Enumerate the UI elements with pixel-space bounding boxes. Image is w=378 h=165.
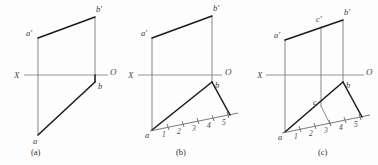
front-view-line-ab-prime xyxy=(152,16,212,38)
scale-number-2: 2 xyxy=(177,127,181,136)
point-label-b: b xyxy=(346,80,350,90)
panel-a: X O a' b' b a (a) xyxy=(0,0,126,165)
point-label-a: a xyxy=(145,130,149,140)
point-label-b-prime: b' xyxy=(344,7,350,17)
panel-caption-b: (b) xyxy=(176,147,186,157)
panel-c: X O a' c' b' b c a 1 2 3 4 5 (c) xyxy=(252,0,378,165)
point-label-a-prime: a' xyxy=(141,28,147,38)
scale-number-3: 3 xyxy=(323,126,328,135)
panel-b: X O a' b' b a 1 2 3 4 5 (b) xyxy=(126,0,252,165)
axis-label-o: O xyxy=(366,67,373,77)
point-label-a: a xyxy=(278,132,282,142)
point-label-b-prime: b' xyxy=(96,4,102,14)
panel-b-drawing: X O a' b' b a 1 2 3 4 5 (b) xyxy=(126,0,252,165)
point-label-b: b xyxy=(98,81,102,91)
top-view-line-ab xyxy=(285,82,343,132)
scale-number-1: 1 xyxy=(294,132,298,141)
scale-number-3: 3 xyxy=(191,124,196,133)
top-view-line-ab xyxy=(38,82,95,135)
scale-number-1: 1 xyxy=(162,130,166,139)
scale-number-2: 2 xyxy=(309,129,313,138)
axis-label-x: X xyxy=(256,70,263,80)
point-label-a-prime: a' xyxy=(26,28,32,38)
panel-caption-a: (a) xyxy=(31,147,41,157)
axis-label-o: O xyxy=(110,67,117,77)
point-label-a-prime: a' xyxy=(274,30,280,40)
figure-canvas: X O a' b' b a (a) xyxy=(0,0,378,165)
scale-number-4: 4 xyxy=(207,121,211,130)
axis-label-x: X xyxy=(127,70,134,80)
scale-number-4: 4 xyxy=(339,123,343,132)
front-view-line-ab-prime xyxy=(38,17,95,38)
point-label-c-prime: c' xyxy=(316,14,322,24)
scale-number-5: 5 xyxy=(354,120,358,129)
point-label-b-prime: b' xyxy=(213,3,219,13)
scale-number-5: 5 xyxy=(222,118,226,127)
point-label-a: a xyxy=(33,136,37,146)
point-label-c: c xyxy=(313,97,317,107)
panel-c-drawing: X O a' c' b' b c a 1 2 3 4 5 (c) xyxy=(252,0,378,165)
front-view-line-ab-prime xyxy=(285,20,343,40)
top-view-line-ab xyxy=(152,82,212,130)
panel-caption-c: (c) xyxy=(318,147,328,157)
transfer-line-c-to-3 xyxy=(321,106,330,124)
point-label-b: b xyxy=(215,80,219,90)
axis-label-o: O xyxy=(225,67,232,77)
axis-label-x: X xyxy=(13,70,20,80)
panel-a-drawing: X O a' b' b a (a) xyxy=(0,0,126,165)
